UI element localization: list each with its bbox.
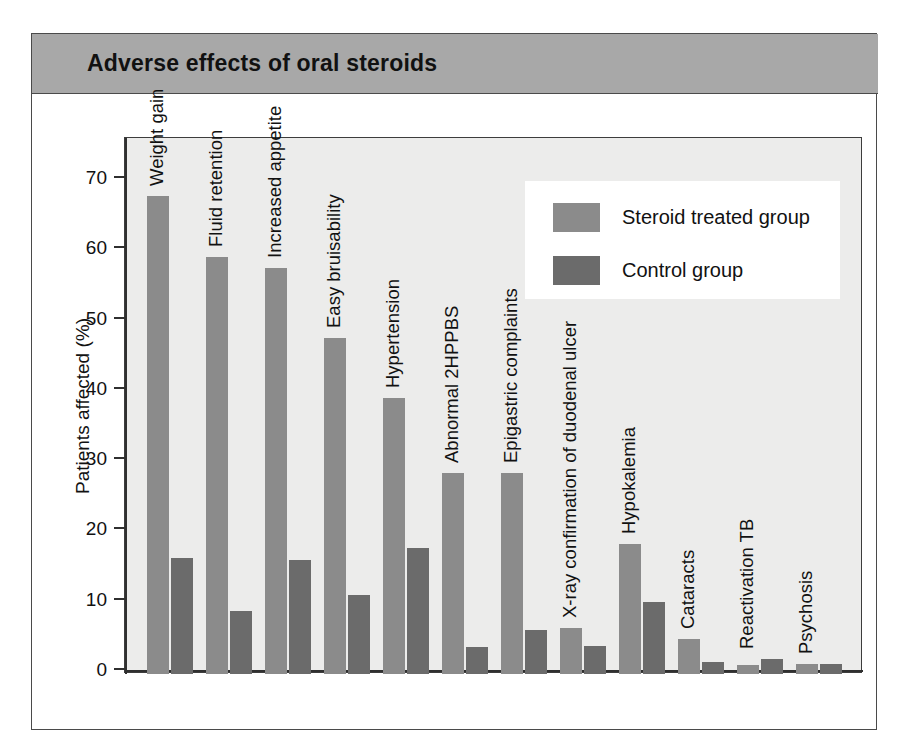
- legend-swatch: [553, 203, 600, 232]
- y-tick-mark: [114, 457, 125, 459]
- bar-steroid-treated: [265, 268, 287, 674]
- bar-steroid-treated: [678, 639, 700, 674]
- page-title: Adverse effects of oral steroids: [87, 50, 437, 77]
- category-label: Hypokalemia: [618, 427, 640, 534]
- y-tick-mark: [114, 598, 125, 600]
- legend-swatch: [553, 256, 600, 285]
- y-tick-label: 30: [67, 448, 107, 470]
- bar-control: [407, 548, 429, 674]
- y-tick-label: 60: [67, 237, 107, 259]
- bar-control: [289, 560, 311, 674]
- bar-control: [171, 558, 193, 674]
- bar-control: [348, 595, 370, 674]
- bar-steroid-treated: [619, 544, 641, 674]
- bar-steroid-treated: [442, 473, 464, 674]
- y-tick-mark: [114, 317, 125, 319]
- title-banner: Adverse effects of oral steroids: [32, 34, 878, 94]
- category-label: Epigastric complaints: [500, 288, 522, 463]
- bar-steroid-treated: [560, 628, 582, 674]
- y-tick-label: 70: [67, 167, 107, 189]
- bar-steroid-treated: [383, 398, 405, 674]
- category-label: Increased appetite: [264, 106, 286, 258]
- bar-control: [466, 647, 488, 674]
- category-label: Reactivation TB: [736, 519, 758, 649]
- y-tick-label: 50: [67, 308, 107, 330]
- bar-steroid-treated: [206, 257, 228, 674]
- plot-area: Patients affected (%) 010203040506070 We…: [124, 137, 862, 673]
- y-tick-label: 0: [67, 659, 107, 681]
- category-label: Fluid retention: [205, 130, 227, 247]
- category-label: Abnormal 2HPPBS: [441, 306, 463, 463]
- y-tick-mark: [114, 668, 125, 670]
- category-label: Weight gain: [146, 89, 168, 186]
- y-tick-mark: [114, 176, 125, 178]
- legend-item: Steroid treated group: [553, 203, 810, 232]
- category-label: Hypertension: [382, 279, 404, 388]
- y-tick-mark: [114, 527, 125, 529]
- y-tick-label: 40: [67, 378, 107, 400]
- bar-control: [525, 630, 547, 674]
- bar-control: [643, 602, 665, 674]
- figure-card: Adverse effects of oral steroids Patient…: [31, 33, 877, 730]
- bar-group: [383, 138, 442, 674]
- bar-control: [702, 662, 724, 674]
- category-label: Psychosis: [795, 571, 817, 654]
- bar-control: [820, 664, 842, 674]
- legend-label: Steroid treated group: [622, 206, 810, 229]
- y-tick-label: 20: [67, 518, 107, 540]
- bar-control: [584, 646, 606, 674]
- bar-control: [761, 659, 783, 674]
- category-label: X-ray confirmation of duodenal ulcer: [559, 321, 581, 618]
- category-label: Cataracts: [677, 550, 699, 629]
- y-tick-label: 10: [67, 589, 107, 611]
- category-label: Easy bruisability: [323, 195, 345, 329]
- bar-steroid-treated: [796, 664, 818, 674]
- bar-steroid-treated: [737, 665, 759, 674]
- bar-steroid-treated: [147, 196, 169, 674]
- bar-steroid-treated: [501, 473, 523, 674]
- bar-steroid-treated: [324, 338, 346, 674]
- legend: Steroid treated groupControl group: [525, 181, 840, 299]
- legend-label: Control group: [622, 259, 743, 282]
- y-tick-mark: [114, 246, 125, 248]
- bar-control: [230, 611, 252, 674]
- bar-group: [147, 138, 206, 674]
- legend-item: Control group: [553, 256, 743, 285]
- y-tick-mark: [114, 387, 125, 389]
